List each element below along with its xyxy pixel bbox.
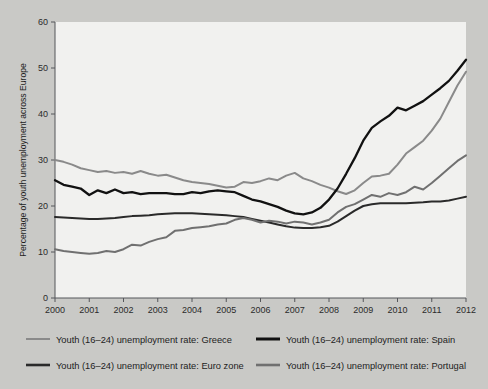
y-tick-label: 0 (43, 293, 48, 303)
y-tick-label: 10 (38, 247, 48, 257)
y-tick-label: 30 (38, 155, 48, 165)
legend-label-spain: Youth (16–24) unemployment rate: Spain (286, 335, 455, 345)
y-tick-label: 20 (38, 201, 48, 211)
legend-label-portugal: Youth (16–24) unemployment rate: Portuga… (286, 361, 466, 371)
x-tick-label: 2009 (353, 305, 373, 315)
plot-area-background (55, 22, 466, 298)
x-tick-label: 2003 (148, 305, 168, 315)
legend-label-euro-zone: Youth (16–24) unemployment rate: Euro zo… (56, 361, 244, 371)
x-tick-label: 2011 (422, 305, 441, 315)
youth-unemployment-line-chart: 0102030405060200020012002200320042005200… (0, 0, 488, 389)
x-tick-label: 2012 (456, 305, 476, 315)
legend-label-greece: Youth (16–24) unemployment rate: Greece (56, 335, 232, 345)
x-tick-label: 2005 (216, 305, 236, 315)
x-tick-label: 2006 (250, 305, 270, 315)
x-tick-label: 2000 (45, 305, 65, 315)
x-tick-label: 2001 (79, 305, 99, 315)
y-tick-label: 60 (38, 17, 48, 27)
x-tick-label: 2010 (387, 305, 407, 315)
x-tick-label: 2007 (285, 305, 305, 315)
x-tick-label: 2002 (113, 305, 133, 315)
x-tick-label: 2008 (319, 305, 339, 315)
y-axis-title: Percentage of youth unemployment across … (18, 63, 28, 257)
chart-figure: 0102030405060200020012002200320042005200… (0, 0, 488, 389)
y-tick-label: 40 (38, 109, 48, 119)
x-tick-label: 2004 (182, 305, 202, 315)
y-tick-label: 50 (38, 63, 48, 73)
